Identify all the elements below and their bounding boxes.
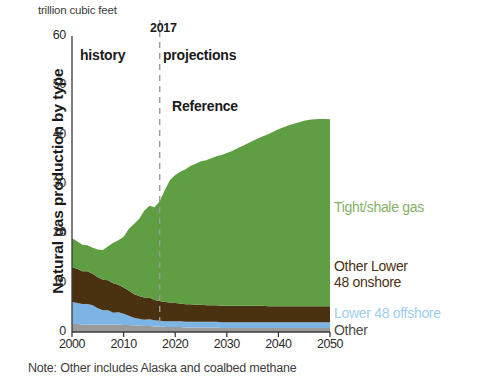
legend-label-lower-48-offshore: Lower 48 offshore (334, 306, 441, 322)
annotation-reference-case: Reference (172, 98, 238, 114)
footnote: Note: Other includes Alaska and coalbed … (28, 361, 297, 375)
y-tick-label: 30 (40, 176, 66, 190)
x-tick-label: 2040 (265, 337, 291, 351)
plot-area (72, 36, 330, 332)
annotation-divider-year: 2017 (150, 21, 177, 35)
x-tick-label: 2010 (110, 337, 136, 351)
legend-label-tight-shale-gas: Tight/shale gas (334, 200, 424, 216)
y-axis-tick-labels: 0102030405060 (38, 0, 66, 388)
y-tick-label: 20 (40, 225, 66, 239)
x-tick-label: 2020 (162, 337, 188, 351)
chart-figure: trillion cubic feet Natural gas producti… (0, 0, 479, 388)
x-tick-label: 2050 (317, 337, 343, 351)
y-tick-label: 0 (40, 324, 66, 338)
y-tick-label: 60 (40, 28, 66, 42)
area-series-group (72, 119, 330, 332)
y-tick-label: 10 (40, 275, 66, 289)
stacked-area-plot (72, 36, 330, 332)
y-tick-label: 50 (40, 77, 66, 91)
annotation-projections: projections (163, 47, 236, 63)
x-tick-label: 2030 (214, 337, 240, 351)
legend-label-other: Other (334, 323, 368, 339)
annotation-history: history (80, 47, 125, 63)
area-series-tight-shale-gas (72, 119, 330, 306)
legend-label-onshore-line1: Other Lower (334, 259, 408, 275)
x-tick-label: 2000 (59, 337, 85, 351)
legend-label-other-lower-48-onshore: Other Lower 48 onshore (334, 259, 408, 290)
legend-label-onshore-line2: 48 onshore (334, 275, 408, 291)
y-tick-label: 40 (40, 127, 66, 141)
x-axis-tick-labels: 200020102020203020402050 (0, 337, 479, 357)
